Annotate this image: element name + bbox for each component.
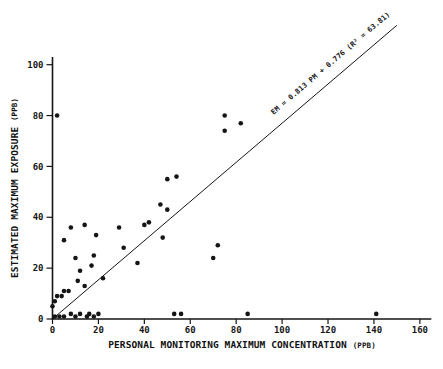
y-tick-label: 60 <box>33 162 44 172</box>
y-axis-title: ESTIMATED MAXIMUM EXPOSURE (PPB) <box>6 57 23 319</box>
y-axis-title-text: ESTIMATED MAXIMUM EXPOSURE <box>9 127 20 278</box>
data-point <box>66 289 71 294</box>
data-point <box>245 312 250 317</box>
x-tick-label: 40 <box>139 325 150 335</box>
data-point <box>142 223 147 228</box>
data-point <box>216 243 221 248</box>
x-tick-label: 80 <box>231 325 242 335</box>
data-point <box>238 121 243 126</box>
data-point <box>121 245 126 250</box>
data-point <box>165 177 170 182</box>
data-point <box>82 223 87 228</box>
y-tick-label: 40 <box>33 212 44 222</box>
data-point <box>172 312 177 317</box>
regression-line <box>53 25 397 319</box>
data-point <box>94 233 99 238</box>
scatter-plot-figure: 020406080100120140160020406080100EM = 0.… <box>0 0 443 369</box>
data-point <box>165 207 170 212</box>
data-point <box>87 312 92 317</box>
data-point <box>179 312 184 317</box>
data-point <box>96 312 101 317</box>
data-point <box>92 253 97 258</box>
x-axis-title-text: PERSONAL MONITORING MAXIMUM CONCENTRATIO… <box>108 339 347 350</box>
data-point <box>73 314 78 319</box>
y-axis-unit: (PPB) <box>10 98 19 121</box>
x-tick-label: 60 <box>185 325 196 335</box>
data-point <box>59 294 64 299</box>
data-point <box>174 174 179 179</box>
data-point <box>135 261 140 266</box>
data-point <box>78 312 83 317</box>
data-point <box>89 263 94 268</box>
data-point <box>62 289 67 294</box>
data-point <box>78 268 83 273</box>
y-tick-label: 20 <box>33 263 44 273</box>
data-point <box>57 314 62 319</box>
x-tick-label: 140 <box>366 325 382 335</box>
data-point <box>55 113 60 118</box>
data-point <box>82 284 87 289</box>
data-point <box>62 238 67 243</box>
data-point <box>52 314 57 319</box>
data-point <box>374 312 379 317</box>
data-point <box>73 256 78 261</box>
plot-area: 020406080100120140160020406080100EM = 0.… <box>0 0 443 369</box>
x-tick-label: 20 <box>93 325 104 335</box>
regression-equation-label: EM = 0.813 PM + 0.776 (R² = 63.81) <box>269 10 392 117</box>
data-point <box>50 304 55 309</box>
data-point <box>158 202 163 207</box>
data-point <box>222 113 227 118</box>
x-tick-label: 100 <box>274 325 290 335</box>
data-point <box>75 279 80 284</box>
data-point <box>55 294 60 299</box>
data-point <box>117 225 122 230</box>
data-point <box>160 235 165 240</box>
data-point <box>69 225 74 230</box>
data-point <box>52 299 57 304</box>
y-tick-label: 80 <box>33 111 44 121</box>
data-point <box>92 314 97 319</box>
x-axis-title: PERSONAL MONITORING MAXIMUM CONCENTRATIO… <box>52 339 432 350</box>
y-tick-label: 0 <box>38 314 43 324</box>
data-point <box>69 312 74 317</box>
x-tick-label: 160 <box>412 325 428 335</box>
x-tick-label: 0 <box>50 325 55 335</box>
data-point <box>211 256 216 261</box>
data-point <box>101 276 106 281</box>
y-tick-label: 100 <box>27 60 43 70</box>
x-axis-unit: (PPB) <box>353 341 376 350</box>
data-point <box>222 129 227 134</box>
data-point <box>147 220 152 225</box>
x-tick-label: 120 <box>320 325 336 335</box>
data-point <box>62 314 67 319</box>
